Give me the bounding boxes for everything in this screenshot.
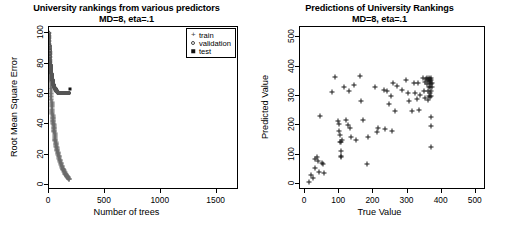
x-tick-label: 1500 [206,195,225,205]
data-point [407,99,412,104]
x-tick-label: 0 [302,195,307,205]
data-point [364,161,369,166]
x-tick [407,189,408,193]
legend-label-test: test [198,47,211,56]
data-point [373,85,378,90]
data-point [416,80,421,85]
x-tick [338,189,339,193]
y-tick-label: 400 [286,58,296,74]
x-tick [475,189,476,193]
right-chart-title: Predictions of University Rankings MD=8,… [253,3,506,25]
y-tick-label: 100 [35,24,45,40]
right-title-sub: MD=8, eta=.1 [253,14,506,25]
x-tick [441,189,442,193]
data-point [386,102,391,107]
left-xaxis-title: Number of trees [0,207,253,217]
y-tick-label: 20 [35,146,45,162]
data-point [389,94,394,99]
data-point [405,91,410,96]
right-yaxis-title: Predicted Value [260,32,270,182]
x-tick [104,189,105,193]
right-xaxis-title: True Value [253,207,506,217]
x-tick-label: 300 [400,195,414,205]
left-legend: + train validation test [186,28,236,58]
data-point [428,114,433,119]
x-tick-label: 200 [365,195,379,205]
y-tick-label: 0 [35,176,45,192]
data-point [320,162,325,167]
left-title-main: University rankings from various predict… [0,3,253,14]
x-tick-label: 500 [468,195,482,205]
data-point [390,128,395,133]
data-point [318,113,323,118]
x-tick-label: 0 [46,195,51,205]
data-point [346,88,351,93]
data-point [348,126,353,131]
x-tick-label: 400 [434,195,448,205]
y-tick-label: 0 [286,175,296,191]
data-point [383,126,388,131]
right-plot-area [299,26,485,189]
x-tick [304,189,305,193]
plus-marker-icon: + [189,31,198,39]
left-chart-title: University rankings from various predict… [0,3,253,25]
panel-rmse-vs-trees: University rankings from various predict… [0,0,253,248]
data-point [409,109,414,114]
y-tick-label: 500 [286,28,296,44]
data-point [366,135,371,140]
panel-predicted-vs-true: Predictions of University Rankings MD=8,… [253,0,506,248]
right-title-main: Predictions of University Rankings [253,3,506,14]
data-point [361,117,366,122]
left-yaxis-title: Root Mean Square Error [9,27,19,187]
data-point [392,108,397,113]
data-point [67,91,71,95]
x-tick [48,189,49,193]
data-point [385,88,390,93]
circle-marker-icon [189,39,198,47]
data-point [68,88,71,91]
data-point [351,82,356,87]
y-tick-label: 40 [35,115,45,131]
x-tick [372,189,373,193]
y-tick-label: 300 [286,87,296,103]
data-point [429,94,434,99]
data-point [429,145,434,150]
data-point [67,177,72,182]
data-point [357,74,362,79]
data-point [337,121,342,126]
y-tick-label: 100 [286,146,296,162]
data-point [430,84,435,89]
x-tick [160,189,161,193]
x-tick-label: 1000 [150,195,169,205]
data-point [359,99,364,104]
data-point [417,108,422,113]
x-tick-label: 500 [97,195,111,205]
data-point [403,77,408,82]
x-tick [216,189,217,193]
y-tick-label: 80 [35,55,45,71]
figure-canvas: University rankings from various predict… [0,0,506,248]
data-point [344,118,349,123]
data-point [376,125,381,130]
data-point [330,90,335,95]
data-point [337,132,342,137]
data-point [310,175,315,180]
data-point [413,91,418,96]
right-data-points [300,27,484,188]
data-point [333,74,338,79]
x-tick-label: 100 [331,195,345,205]
data-point [321,170,326,175]
data-point [339,155,344,160]
legend-item-test: test [189,47,231,55]
square-marker-icon [189,47,198,55]
y-tick-label: 60 [35,85,45,101]
data-point [339,138,344,143]
left-plot-area: + train validation test [48,26,238,189]
y-tick-label: 200 [286,116,296,132]
data-point [354,138,359,143]
data-point [429,123,434,128]
